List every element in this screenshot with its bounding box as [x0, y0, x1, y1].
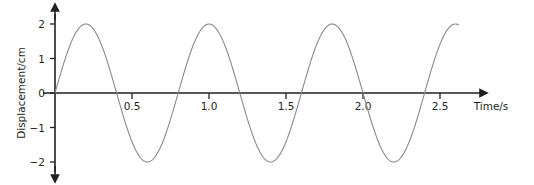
y-tick-label-1: 1 — [38, 53, 45, 65]
x-tick-label-1p0: 1.0 — [201, 100, 218, 112]
x-tick-label-1p5: 1.5 — [278, 100, 295, 112]
y-tick-label-neg1: −1 — [30, 122, 45, 134]
x-tick-label-2p0: 2.0 — [355, 100, 372, 112]
y-tick-label-0: 0 — [38, 87, 45, 99]
y-tick-label-neg2: −2 — [30, 156, 45, 168]
x-tick-label-2p5: 2.5 — [432, 100, 449, 112]
sine-wave-chart: 2 1 0 −1 −2 0.5 1.0 1.5 2.0 2.5 Time/s D… — [0, 0, 534, 185]
chart-canvas: 2 1 0 −1 −2 0.5 1.0 1.5 2.0 2.5 Time/s D… — [0, 0, 534, 185]
x-axis-title: Time/s — [473, 100, 509, 112]
y-axis-title: Displacement/cm — [15, 47, 27, 139]
x-tick-label-0p5: 0.5 — [124, 100, 141, 112]
y-tick-label-2: 2 — [38, 18, 45, 30]
